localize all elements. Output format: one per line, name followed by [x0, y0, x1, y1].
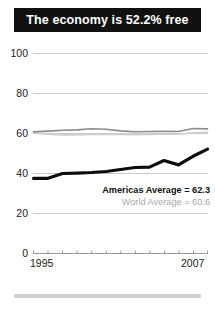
- footer-divider: [14, 294, 201, 298]
- chart-plot-svg: [0, 38, 215, 270]
- plot-area: 100 80 60 40 20 0: [0, 38, 215, 270]
- chart-legend: Americas Average = 62.3 World Average = …: [60, 184, 210, 208]
- chart-card: The economy is 52.2% free 100 80 60 40 2…: [0, 0, 215, 310]
- page-title: The economy is 52.2% free: [26, 13, 188, 27]
- x-tick-label-end: 2007: [181, 257, 204, 269]
- x-tick-label-start: 1995: [30, 257, 53, 269]
- legend-item-world-average: World Average = 60.6: [60, 196, 210, 208]
- x-axis: [33, 251, 208, 254]
- chart-title-banner: The economy is 52.2% free: [14, 8, 201, 32]
- line-americas-average: [34, 129, 208, 132]
- legend-item-americas-average: Americas Average = 62.3: [60, 184, 210, 196]
